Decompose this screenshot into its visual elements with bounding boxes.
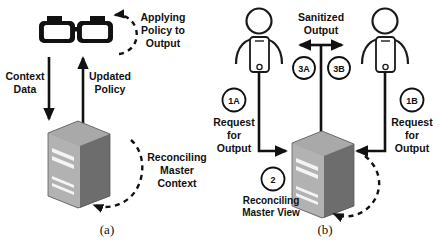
applying-policy-loop <box>115 15 137 54</box>
svg-text:Context: Context <box>157 177 197 189</box>
svg-text:Output: Output <box>217 142 252 154</box>
svg-text:Output: Output <box>146 37 181 49</box>
badge-2: 2 <box>262 168 285 191</box>
badge-1b: 1B <box>401 89 424 112</box>
badge-1a: 1A <box>223 89 246 112</box>
request-right-label: Request for Output <box>391 116 433 154</box>
svg-text:Policy: Policy <box>95 83 126 95</box>
svg-text:Request: Request <box>213 116 255 128</box>
context-data-label: Context Data <box>5 70 45 95</box>
diagram-svg: Applying Policy to Output Context Data U… <box>0 0 441 245</box>
svg-text:Reconciling: Reconciling <box>243 195 300 206</box>
reconciling-master-context-label: Reconciling Master Context <box>147 151 207 189</box>
request-right-arrow <box>357 72 385 151</box>
svg-text:for: for <box>227 129 241 141</box>
badge-3b: 3B <box>328 57 350 79</box>
svg-text:Context: Context <box>5 70 45 82</box>
svg-text:Policy to: Policy to <box>141 24 185 36</box>
svg-text:Reconciling: Reconciling <box>147 151 207 163</box>
user-right-icon <box>362 9 408 73</box>
caption-b: (b) <box>317 222 332 237</box>
figure-container: Applying Policy to Output Context Data U… <box>0 0 441 245</box>
svg-text:Master View: Master View <box>242 207 300 218</box>
svg-text:Master: Master <box>160 164 194 176</box>
svg-text:3B: 3B <box>333 64 345 74</box>
svg-text:for: for <box>405 129 419 141</box>
request-left-arrow <box>259 72 286 151</box>
reconciling-master-view-label: Reconciling Master View <box>242 195 300 218</box>
caption-a: (a) <box>100 222 114 237</box>
server-icon-b <box>292 131 354 218</box>
badge-3a: 3A <box>293 57 315 79</box>
svg-text:2: 2 <box>270 175 275 185</box>
applying-policy-label: Applying Policy to Output <box>141 11 186 49</box>
svg-text:Applying: Applying <box>141 11 186 23</box>
panel-a: Applying Policy to Output Context Data U… <box>5 11 206 237</box>
updated-policy-label: Updated Policy <box>89 70 131 95</box>
svg-text:Request: Request <box>391 116 433 128</box>
svg-text:Updated: Updated <box>89 70 131 82</box>
sanitized-output-label: Sanitized Output <box>298 11 344 36</box>
user-left-icon <box>236 9 282 73</box>
svg-text:3A: 3A <box>298 64 310 74</box>
panel-b: Sanitized Output 3A 3B <box>213 9 433 237</box>
svg-text:Data: Data <box>14 83 37 95</box>
svg-text:1B: 1B <box>406 96 418 106</box>
svg-text:1A: 1A <box>228 96 240 106</box>
svg-text:Output: Output <box>395 142 430 154</box>
svg-text:Output: Output <box>304 24 339 36</box>
svg-text:Sanitized: Sanitized <box>298 11 344 23</box>
server-icon-a <box>48 121 110 208</box>
request-left-label: Request for Output <box>213 116 255 154</box>
glasses-icon <box>39 16 113 43</box>
